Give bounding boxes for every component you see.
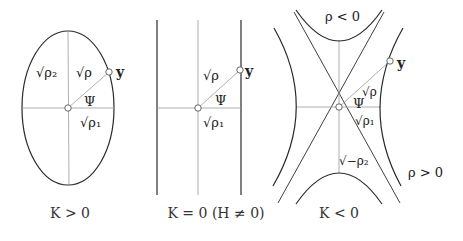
center-point xyxy=(195,105,201,111)
panel-elliptic: √ρ₂ √ρ Ψ √ρ₁ y K > 0 xyxy=(22,31,125,221)
label-rho-negative: ρ < 0 xyxy=(325,9,360,24)
label-sqrt-rho: √ρ xyxy=(203,68,219,83)
panel-hyperbolic: ρ < 0 ρ > 0 √ρ Ψ √ρ₁ √−ρ₂ y K < 0 xyxy=(273,9,443,221)
hyperbola-bottom xyxy=(296,173,382,204)
center-point xyxy=(65,105,71,111)
label-sqrt-rho1: √ρ₁ xyxy=(203,115,224,130)
label-sqrt-rho1: √ρ₁ xyxy=(355,114,375,128)
caption-hyperbolic: K < 0 xyxy=(319,205,359,221)
label-point-y: y xyxy=(115,64,125,80)
point-y xyxy=(387,58,393,64)
hyperbola-right xyxy=(380,28,403,186)
label-point-y: y xyxy=(244,63,254,79)
label-sqrt-rho1: √ρ₁ xyxy=(80,115,101,130)
center-point xyxy=(336,104,342,110)
label-sqrt-rho: √ρ xyxy=(76,65,92,80)
figure: √ρ₂ √ρ Ψ √ρ₁ y K > 0 √ρ Ψ √ρ₁ y K = 0 (H… xyxy=(0,0,463,241)
label-psi: Ψ xyxy=(353,96,364,111)
panel-parabolic: √ρ Ψ √ρ₁ y K = 0 (H ≠ 0) xyxy=(157,20,265,221)
label-point-y: y xyxy=(396,55,406,71)
label-psi: Ψ xyxy=(215,93,226,108)
label-rho-positive: ρ > 0 xyxy=(408,165,443,180)
caption-parabolic: K = 0 (H ≠ 0) xyxy=(167,205,264,221)
point-y xyxy=(106,69,112,75)
label-sqrt-rho2: √ρ₂ xyxy=(36,65,57,80)
label-psi: Ψ xyxy=(84,94,95,109)
label-sqrt-neg-rho2: √−ρ₂ xyxy=(339,154,369,168)
caption-elliptic: K > 0 xyxy=(50,205,90,221)
point-y xyxy=(237,67,243,73)
hyperbola-left xyxy=(273,28,296,186)
